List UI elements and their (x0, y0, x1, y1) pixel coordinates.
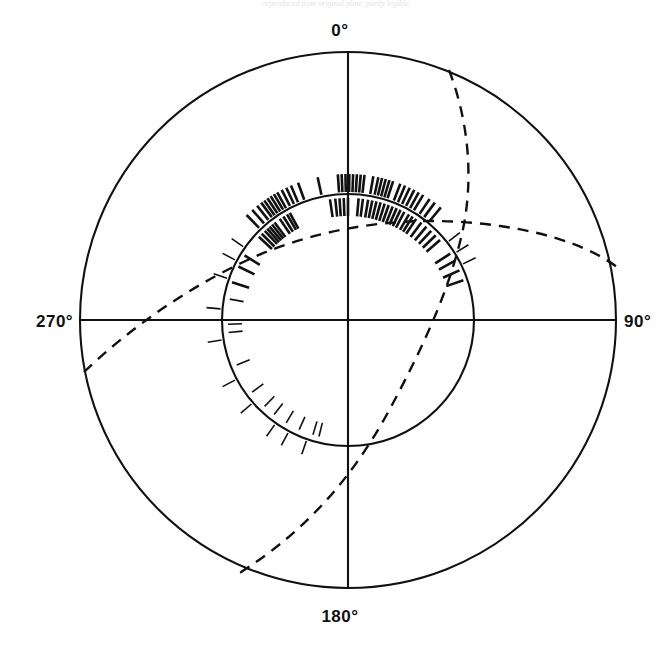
axis-label-270deg: 270° (36, 312, 73, 331)
tick-mark (338, 174, 339, 192)
axis-label-90deg: 90° (624, 312, 651, 331)
polar-plot-canvas: 0° 90° 180° 270° (0, 0, 672, 649)
axis-label-180deg: 180° (321, 607, 358, 626)
tick-mark (359, 175, 361, 193)
tick-mark (357, 198, 359, 216)
plot-background (0, 0, 672, 649)
axis-label-0deg: 0° (331, 21, 348, 40)
tick-mark (356, 174, 357, 192)
tick-mark (342, 174, 343, 192)
tick-mark (352, 174, 353, 192)
tick-mark (339, 198, 340, 216)
tick-mark (344, 198, 345, 216)
polar-figure: reproduced from original plate, partly l… (0, 0, 672, 649)
